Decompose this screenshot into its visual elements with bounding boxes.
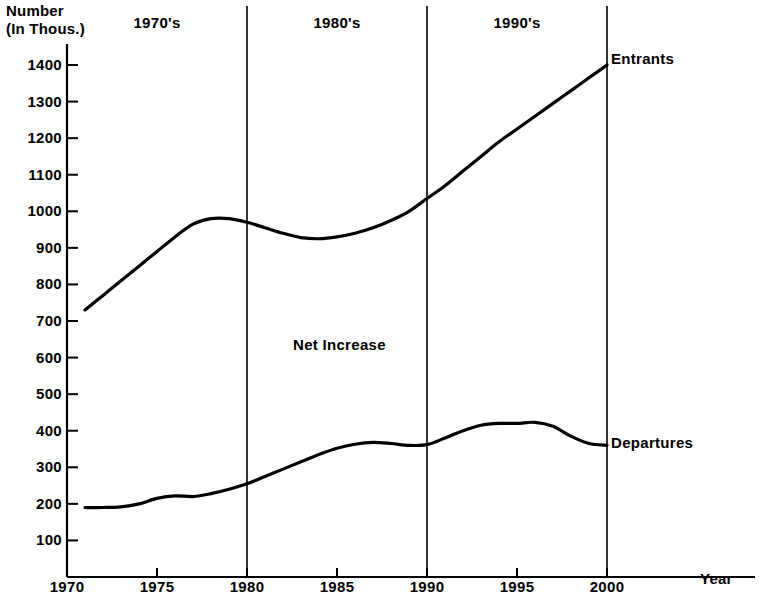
series-line-entrants: [85, 65, 607, 310]
series-line-departures: [85, 422, 607, 507]
decade-divider-lines: [247, 6, 607, 577]
plot-area: [0, 0, 759, 603]
series-lines: [85, 65, 607, 508]
y-axis-ticks: [67, 65, 78, 540]
chart-figure: Number(In Thous.) Year 14001300120011001…: [0, 0, 759, 603]
x-axis-ticks: [67, 568, 607, 577]
